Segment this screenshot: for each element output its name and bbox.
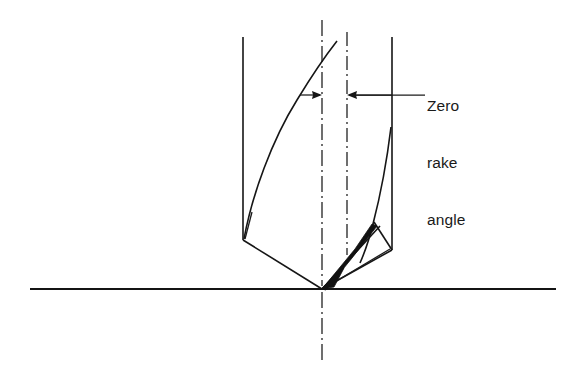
label-line-3: angle xyxy=(427,210,465,229)
label-line-1: Zero xyxy=(427,96,465,115)
dimension-arrow-right-pointing xyxy=(312,91,322,99)
drill-diagram-svg xyxy=(0,0,584,381)
dimension-arrow-left-pointing xyxy=(347,91,357,99)
label-line-2: rake xyxy=(427,153,465,172)
zero-rake-angle-label: Zero rake angle xyxy=(427,58,465,267)
cutting-lip-left xyxy=(243,240,322,289)
figure-root: Zero rake angle xyxy=(0,0,584,381)
flute-helix-curve-front xyxy=(244,41,337,239)
